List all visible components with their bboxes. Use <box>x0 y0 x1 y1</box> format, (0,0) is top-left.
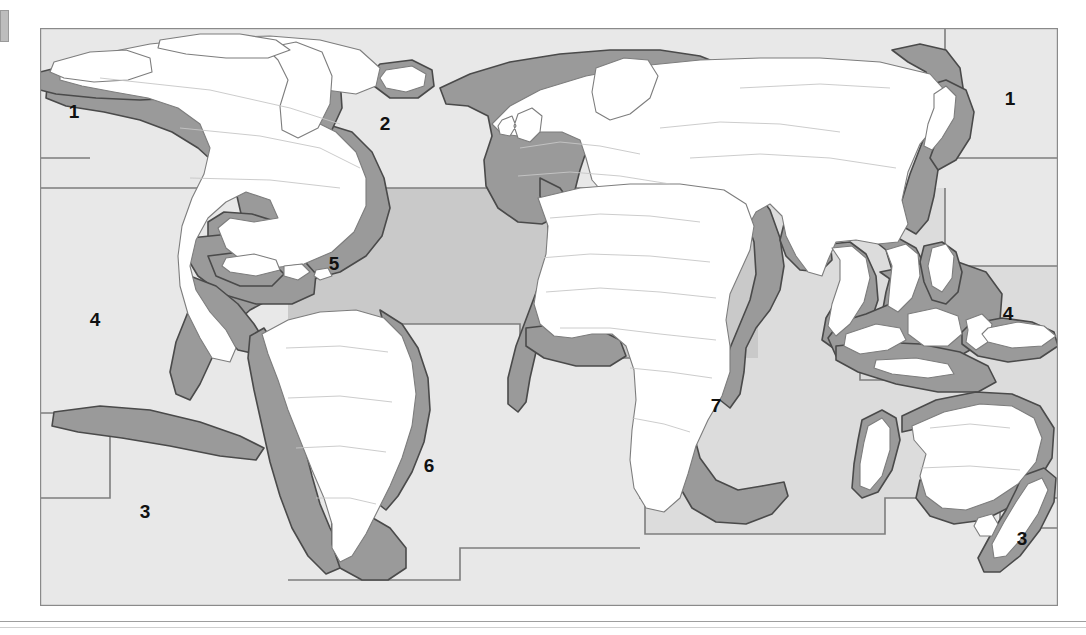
region-label-1-east: 1 <box>1005 88 1016 109</box>
region-label-2: 2 <box>380 113 391 134</box>
page-root: 1 1 2 3 3 4 4 5 6 7 <box>0 0 1086 635</box>
world-map-svg: 1 1 2 3 3 4 4 5 6 7 <box>40 28 1058 606</box>
world-map: 1 1 2 3 3 4 4 5 6 7 <box>40 28 1058 606</box>
region-label-3-east: 3 <box>140 501 151 522</box>
region-label-4-east: 4 <box>90 309 101 330</box>
region-label-7: 7 <box>711 395 722 416</box>
region-label-3-west: 3 <box>1017 528 1028 549</box>
page-bottom-rule <box>0 621 1086 622</box>
land-iceland <box>380 66 426 92</box>
region-label-4-west: 4 <box>1003 303 1014 324</box>
region-label-5: 5 <box>329 253 340 274</box>
region-label-1-west: 1 <box>69 101 80 122</box>
page-edge-artifact <box>0 10 9 42</box>
region-label-6: 6 <box>424 455 435 476</box>
page-bottom-rule-2 <box>0 627 1086 628</box>
